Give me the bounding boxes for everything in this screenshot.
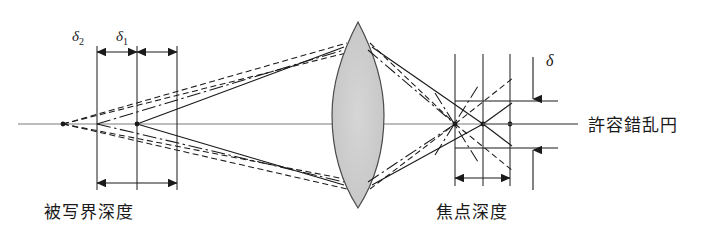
label-depth-of-focus: 焦点深度 [436, 198, 508, 223]
rays-dashed-object-side [63, 43, 350, 189]
image-side-planes [455, 54, 510, 186]
point-image-near [453, 122, 458, 127]
label-delta1: δ1 [116, 28, 128, 47]
rays-dashed-image-side [370, 43, 513, 189]
label-depth-of-field: 被写界深度 [44, 198, 134, 223]
label-delta: δ [546, 52, 553, 70]
figure-canvas: δ2 δ1 δ 被写界深度 焦点深度 許容錯乱円 [0, 0, 710, 237]
object-side-planes [97, 46, 177, 190]
delta1-subscript: 1 [123, 36, 128, 47]
delta1-glyph: δ [116, 28, 123, 44]
label-circle-of-confusion: 許容錯乱円 [588, 111, 678, 136]
delta2-glyph: δ [72, 28, 79, 44]
rays-solid-image-side [372, 47, 512, 185]
rays-chain-object-side [97, 50, 344, 182]
label-delta2: δ2 [72, 28, 84, 47]
delta2-subscript: 2 [79, 36, 84, 47]
